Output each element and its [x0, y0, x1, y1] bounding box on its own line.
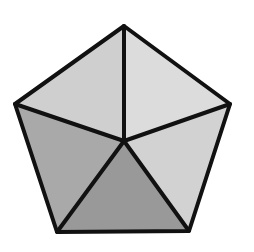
- pentagon-diagram: [0, 0, 254, 252]
- pentagon-svg: [0, 0, 254, 252]
